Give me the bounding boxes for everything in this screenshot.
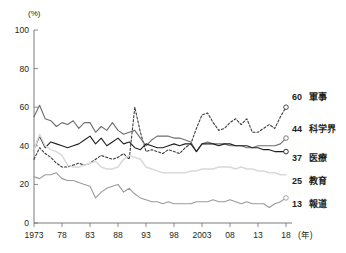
series-name-label-0: 軍事 xyxy=(309,91,327,102)
series-line-3 xyxy=(34,134,286,175)
x-axis-tick-label: 1973 xyxy=(25,230,44,240)
series-value-label-2: 37 xyxy=(292,153,302,163)
x-axis-tick-label: 78 xyxy=(57,230,67,240)
x-axis-tick-label: 2003 xyxy=(193,230,212,240)
x-axis-tick-label: 83 xyxy=(85,230,95,240)
series-line-0 xyxy=(34,107,286,167)
y-axis-tick-label: 80 xyxy=(20,64,30,74)
series-value-label-4: 13 xyxy=(292,199,302,209)
series-name-label-1: 科学界 xyxy=(309,123,336,134)
series-line-2 xyxy=(34,136,286,151)
series-endpoint-marker-2 xyxy=(284,149,289,154)
series-endpoint-marker-0 xyxy=(284,105,289,110)
x-axis-tick-label: 08 xyxy=(225,230,235,240)
series-name-label-2: 医療 xyxy=(309,152,327,163)
series-line-1 xyxy=(34,105,286,151)
y-axis-tick-label: 20 xyxy=(20,179,30,189)
series-name-label-4: 報道 xyxy=(309,198,327,209)
line-chart: (%)020406080100197378838893982003081318(… xyxy=(0,0,346,253)
series-endpoint-marker-4 xyxy=(284,196,289,201)
series-value-label-3: 25 xyxy=(292,176,302,186)
y-axis-tick-label: 40 xyxy=(20,141,30,151)
x-axis-unit-label: (年) xyxy=(298,230,313,240)
y-axis-tick-label: 0 xyxy=(24,218,29,228)
x-axis-tick-label: 93 xyxy=(141,230,151,240)
x-axis-tick-label: 13 xyxy=(253,230,263,240)
x-axis-tick-label: 88 xyxy=(113,230,123,240)
x-axis-tick-label: 18 xyxy=(281,230,291,240)
series-endpoint-marker-1 xyxy=(284,136,289,141)
series-value-label-1: 44 xyxy=(292,124,302,134)
y-axis-tick-label: 60 xyxy=(20,102,30,112)
series-name-label-3: 教育 xyxy=(308,175,327,186)
y-axis-unit-label: (%) xyxy=(28,9,41,18)
chart-canvas: (%)020406080100197378838893982003081318(… xyxy=(0,0,346,253)
series-value-label-0: 60 xyxy=(292,92,302,102)
y-axis-tick-label: 100 xyxy=(15,25,29,35)
x-axis-tick-label: 98 xyxy=(169,230,179,240)
series-line-4 xyxy=(34,173,286,208)
